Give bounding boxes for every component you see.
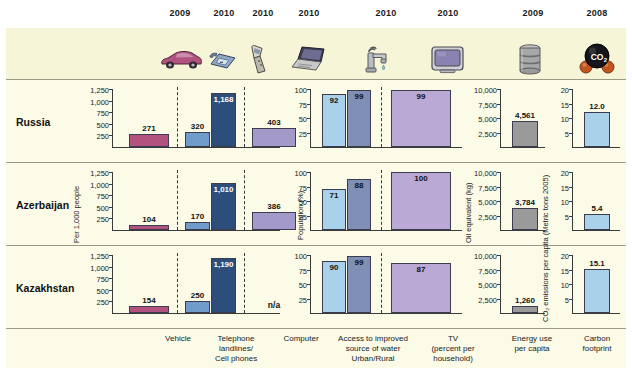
y-tick-label-per1000-kazakhstan-0: 1,250 xyxy=(72,253,109,261)
y-tick-mark-per1000-kazakhstan-0 xyxy=(109,255,112,256)
y-tick-mark-oil-russia-1 xyxy=(497,104,500,105)
separator-vehicle-telephone-kazakhstan xyxy=(177,253,178,313)
y-tick-mark-per1000-russia-3 xyxy=(109,124,112,125)
y-tick-label-per1000-russia-4: 250 xyxy=(72,133,109,141)
y-tick-label-pop-kazakhstan-2: 50 xyxy=(270,282,307,290)
y-tick-label-per1000-russia-2: 750 xyxy=(72,110,109,118)
category-label-telephone: Telephone landlines/ Cell phones xyxy=(196,334,276,364)
category-label-carbon: Carbon footprint xyxy=(566,334,628,354)
bar-value-tv-kazakhstan: 87 xyxy=(387,265,455,274)
y-tick-mark-pop-russia-0 xyxy=(307,89,310,90)
y-tick-mark-pop-azerbaijan-3 xyxy=(307,216,310,217)
bar-value-cellphone-russia: 1,168 xyxy=(207,95,240,104)
x-axis-oil-russia xyxy=(500,147,545,148)
y-tick-mark-co2-azerbaijan-2 xyxy=(569,201,572,202)
bar-landline-russia xyxy=(185,132,210,147)
y-tick-label-co2-azerbaijan-0: 20 xyxy=(532,170,569,178)
year-label-vehicle: 2009 xyxy=(160,8,200,18)
bar-value-energy-kazakhstan: 1,260 xyxy=(504,296,546,305)
y-tick-label-oil-russia-3: 2,500 xyxy=(460,131,497,139)
cell-phone-icon xyxy=(250,44,272,74)
y-tick-mark-oil-kazakhstan-2 xyxy=(497,284,500,285)
y-axis-co2-russia xyxy=(572,89,573,147)
category-label-energy: Energy use per capita xyxy=(492,334,572,354)
co2-molecule-icon: CO 2 xyxy=(578,42,616,75)
bar-vehicle-russia xyxy=(129,134,169,147)
y-tick-mark-pop-kazakhstan-3 xyxy=(307,299,310,300)
y-tick-label-per1000-russia-1: 1,000 xyxy=(72,99,109,107)
x-axis-pop-azerbaijan xyxy=(310,230,462,231)
y-tick-label-per1000-kazakhstan-4: 250 xyxy=(72,299,109,307)
y-tick-label-co2-kazakhstan-0: 20 xyxy=(532,253,569,261)
y-tick-mark-pop-russia-1 xyxy=(307,104,310,105)
y-tick-label-pop-azerbaijan-1: 75 xyxy=(270,185,307,193)
y-tick-label-pop-russia-0: 100 xyxy=(270,87,307,95)
bar-computer-russia xyxy=(252,128,296,147)
y-tick-label-per1000-azerbaijan-0: 1,250 xyxy=(72,170,109,178)
y-axis-oil-azerbaijan xyxy=(500,172,501,230)
y-tick-mark-oil-azerbaijan-3 xyxy=(497,216,500,217)
bar-value-energy-azerbaijan: 3,784 xyxy=(504,198,546,207)
bar-vehicle-azerbaijan xyxy=(129,225,169,230)
bar-value-carbon-russia: 12.0 xyxy=(576,102,618,111)
y-tick-mark-oil-azerbaijan-2 xyxy=(497,201,500,202)
y-tick-mark-oil-russia-0 xyxy=(497,89,500,90)
y-tick-mark-per1000-russia-1 xyxy=(109,101,112,102)
y-tick-label-oil-kazakhstan-1: 7,500 xyxy=(460,268,497,276)
x-axis-oil-kazakhstan xyxy=(500,313,545,314)
y-tick-mark-per1000-russia-4 xyxy=(109,135,112,136)
y-tick-mark-per1000-azerbaijan-3 xyxy=(109,207,112,208)
bar-carbon-russia xyxy=(584,112,610,147)
y-tick-mark-per1000-russia-0 xyxy=(109,89,112,90)
y-tick-label-oil-azerbaijan-1: 7,500 xyxy=(460,185,497,193)
x-axis-co2-russia xyxy=(572,147,620,148)
y-tick-label-oil-kazakhstan-3: 2,500 xyxy=(460,297,497,305)
bar-energy-azerbaijan xyxy=(512,208,538,230)
y-axis-co2-kazakhstan xyxy=(572,255,573,313)
bar-carbon-azerbaijan xyxy=(584,214,610,230)
bar-value-vehicle-russia: 271 xyxy=(121,124,177,133)
y-tick-mark-per1000-russia-2 xyxy=(109,112,112,113)
y-tick-label-per1000-kazakhstan-2: 750 xyxy=(72,276,109,284)
y-tick-mark-pop-kazakhstan-0 xyxy=(307,255,310,256)
car-icon xyxy=(158,48,204,70)
y-tick-label-co2-russia-0: 20 xyxy=(532,87,569,95)
oil-barrel-icon xyxy=(516,44,544,75)
y-tick-label-pop-kazakhstan-0: 100 xyxy=(270,253,307,261)
y-tick-mark-co2-kazakhstan-1 xyxy=(569,270,572,271)
bar-value-carbon-kazakhstan: 15.1 xyxy=(576,259,618,268)
y-axis-pop-russia xyxy=(310,89,311,147)
y-tick-label-co2-kazakhstan-1: 15 xyxy=(532,268,569,276)
y-tick-mark-per1000-kazakhstan-1 xyxy=(109,267,112,268)
separator-water-tv-kazakhstan xyxy=(381,253,382,313)
bar-value-computer-russia: 403 xyxy=(244,118,304,127)
y-tick-mark-pop-azerbaijan-0 xyxy=(307,172,310,173)
year-label-water: 2010 xyxy=(366,8,406,18)
y-tick-mark-per1000-kazakhstan-2 xyxy=(109,278,112,279)
bar-computer-azerbaijan xyxy=(252,212,296,230)
year-label-energy: 2009 xyxy=(513,8,553,18)
y-axis-per1000-russia xyxy=(112,89,113,147)
y-tick-mark-oil-kazakhstan-3 xyxy=(497,299,500,300)
y-axis-oil-kazakhstan xyxy=(500,255,501,313)
y-tick-mark-per1000-azerbaijan-4 xyxy=(109,218,112,219)
y-tick-label-per1000-azerbaijan-1: 1,000 xyxy=(72,182,109,190)
y-tick-mark-co2-kazakhstan-0 xyxy=(569,255,572,256)
y-tick-label-oil-azerbaijan-0: 10,000 xyxy=(460,170,497,178)
bar-vehicle-kazakhstan xyxy=(129,306,169,313)
y-tick-label-per1000-kazakhstan-3: 500 xyxy=(72,288,109,296)
bar-value-vehicle-azerbaijan: 104 xyxy=(121,215,177,224)
bar-value-computer-azerbaijan: 386 xyxy=(244,202,304,211)
y-axis-pop-kazakhstan xyxy=(310,255,311,313)
bar-value-vehicle-kazakhstan: 154 xyxy=(121,296,177,305)
y-tick-label-oil-azerbaijan-2: 5,000 xyxy=(460,199,497,207)
y-tick-mark-pop-azerbaijan-1 xyxy=(307,187,310,188)
y-tick-mark-co2-azerbaijan-0 xyxy=(569,172,572,173)
year-label-landline: 2010 xyxy=(204,8,244,18)
water-tap-icon xyxy=(364,43,398,75)
bar-value-water-rural-azerbaijan: 88 xyxy=(343,181,375,190)
y-tick-mark-oil-azerbaijan-0 xyxy=(497,172,500,173)
x-axis-per1000-azerbaijan xyxy=(112,230,280,231)
category-label-water: Access to improved source of water Urban… xyxy=(324,334,422,364)
bar-value-tv-azerbaijan: 100 xyxy=(387,174,455,183)
